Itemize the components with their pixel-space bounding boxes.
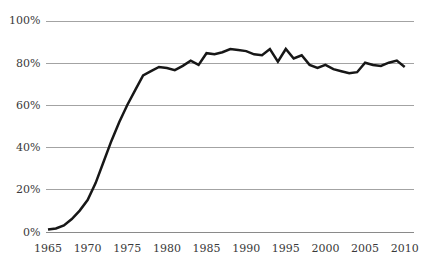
x-tick-label: 1990 [232, 242, 260, 255]
x-tick-label: 2000 [311, 242, 339, 255]
line-chart: 0%20%40%60%80%100%1965197019751980198519… [0, 0, 435, 269]
x-tick-label: 1965 [34, 242, 62, 255]
y-tick-label: 20% [16, 183, 40, 196]
y-tick-label: 0% [23, 226, 40, 239]
y-tick-label: 80% [16, 57, 40, 70]
y-tick-label: 40% [16, 141, 40, 154]
x-tick-label: 1985 [193, 242, 221, 255]
data-series-line [48, 49, 405, 230]
y-tick-label: 60% [16, 99, 40, 112]
x-tick-label: 1970 [74, 242, 102, 255]
x-tick-label: 1975 [113, 242, 141, 255]
line-chart-figure: 0%20%40%60%80%100%1965197019751980198519… [0, 0, 435, 269]
x-tick-label: 2010 [391, 242, 419, 255]
x-tick-label: 1995 [272, 242, 300, 255]
y-tick-label: 100% [9, 14, 40, 27]
x-tick-label: 1980 [153, 242, 181, 255]
x-tick-label: 2005 [351, 242, 379, 255]
